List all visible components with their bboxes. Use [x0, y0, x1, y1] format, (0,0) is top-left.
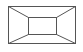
- bottom-left-diagonal: [9, 35, 29, 44]
- bottom-right-diagonal: [57, 35, 76, 44]
- top-right-diagonal: [57, 7, 76, 18]
- top-left-diagonal: [9, 7, 29, 18]
- room-wireframe-diagram: [0, 0, 83, 52]
- inner-rectangle: [29, 18, 57, 35]
